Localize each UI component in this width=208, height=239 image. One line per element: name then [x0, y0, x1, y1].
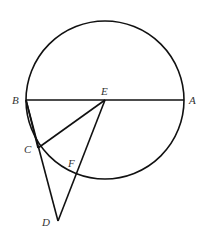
label-d: D [41, 216, 50, 228]
segment-ed [58, 100, 105, 221]
label-b: B [12, 94, 19, 106]
label-f: F [67, 157, 75, 169]
segment-bc [26, 100, 38, 148]
label-c: C [24, 143, 32, 155]
label-a: A [188, 94, 196, 106]
geometry-diagram: B A E C F D [0, 0, 208, 239]
label-e: E [100, 85, 108, 97]
